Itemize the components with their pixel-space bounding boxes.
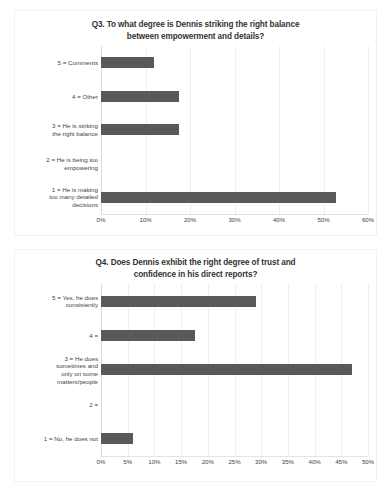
plot-area-q3: 5 = Comments4 = Other3 = He is strikingt… (101, 46, 368, 214)
bar (101, 192, 336, 203)
x-axis-tick-label: 20% (202, 458, 214, 465)
category-label: 1 = He is makingtoo many detaileddecisio… (17, 186, 101, 209)
bar-row: 1 = No, he does not (101, 422, 368, 456)
x-axis-tick-label: 50% (317, 216, 329, 223)
category-label: 5 = Yes, he doesconsistently (17, 294, 101, 309)
bar (101, 296, 256, 307)
x-axis-tick-label: 25% (228, 458, 240, 465)
chart-title-q3-line1: Q3. To what degree is Dennis striking th… (92, 20, 300, 29)
bar (101, 330, 195, 341)
x-axis-tick-label: 20% (184, 216, 196, 223)
chart-title-q4-line2: confidence in his direct reports? (134, 270, 258, 279)
x-axis-line (101, 214, 368, 215)
gridline (368, 284, 369, 456)
category-label: 4 = Other (17, 93, 101, 101)
bar (101, 57, 154, 68)
chart-title-q3: Q3. To what degree is Dennis striking th… (15, 11, 376, 42)
bar (101, 433, 133, 444)
bar-row: 5 = Yes, he doesconsistently (101, 284, 368, 318)
bar-row: 4 = Other (101, 80, 368, 114)
bar (101, 124, 179, 135)
plot-rows-q4: 5 = Yes, he doesconsistently4 =3 = He do… (101, 284, 368, 456)
chart-panel-q4: Q4. Does Dennis exhibit the right degree… (14, 249, 377, 482)
plot-rows-q3: 5 = Comments4 = Other3 = He is strikingt… (101, 46, 368, 214)
bar-row: 2 = He is being tooempowering (101, 147, 368, 181)
bar-row: 4 = (101, 318, 368, 352)
x-axis-tick-label: 35% (282, 458, 294, 465)
plot-area-q4: 5 = Yes, he doesconsistently4 =3 = He do… (101, 284, 368, 456)
bar-row: 2 = (101, 387, 368, 421)
category-label: 2 = He is being tooempowering (17, 156, 101, 171)
plot-wrap-q4: 5 = Yes, he doesconsistently4 =3 = He do… (15, 284, 376, 469)
x-axis-tick-label: 0% (97, 458, 106, 465)
x-axis-line (101, 456, 368, 457)
x-axis-tick-label: 10% (139, 216, 151, 223)
chart-title-q4: Q4. Does Dennis exhibit the right degree… (15, 250, 376, 280)
x-axis-tick-label: 50% (362, 458, 374, 465)
bar (101, 91, 179, 102)
plot-wrap-q3: 5 = Comments4 = Other3 = He is strikingt… (15, 46, 376, 227)
bar-row: 3 = He doessometimes andonly on somematt… (101, 353, 368, 387)
bar-row: 3 = He is strikingthe right balance (101, 113, 368, 147)
gridline (368, 46, 369, 214)
category-label: 4 = (17, 332, 101, 340)
x-axis-q3: 0%10%20%30%40%50%60% (101, 214, 368, 227)
category-label: 5 = Comments (17, 59, 101, 67)
x-axis-tick-label: 15% (175, 458, 187, 465)
x-axis-q4: 0%5%10%15%20%25%30%35%40%45%50% (101, 456, 368, 469)
bar-row: 5 = Comments (101, 46, 368, 80)
x-axis-tick-label: 0% (97, 216, 106, 223)
slide-page: Q3. To what degree is Dennis striking th… (0, 0, 391, 489)
chart-title-q3-line2: between empowerment and details? (127, 32, 264, 41)
x-axis-tick-label: 30% (228, 216, 240, 223)
x-axis-tick-label: 10% (148, 458, 160, 465)
x-axis-tick-label: 40% (273, 216, 285, 223)
category-label: 3 = He doessometimes andonly on somematt… (17, 355, 101, 385)
x-axis-tick-label: 60% (362, 216, 374, 223)
chart-title-q4-line1: Q4. Does Dennis exhibit the right degree… (96, 258, 296, 267)
category-label: 3 = He is strikingthe right balance (17, 122, 101, 137)
x-axis-tick-label: 30% (255, 458, 267, 465)
bar-row: 1 = He is makingtoo many detaileddecisio… (101, 180, 368, 214)
category-label: 1 = No, he does not (17, 435, 101, 443)
bar (101, 364, 352, 375)
chart-panel-q3: Q3. To what degree is Dennis striking th… (14, 10, 377, 236)
x-axis-tick-label: 40% (308, 458, 320, 465)
footer-clipped-text (0, 484, 391, 489)
x-axis-tick-label: 5% (123, 458, 132, 465)
x-axis-tick-label: 45% (335, 458, 347, 465)
category-label: 2 = (17, 401, 101, 409)
